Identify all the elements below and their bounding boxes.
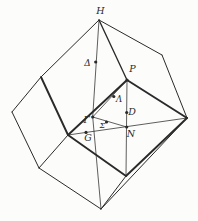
point-label-D: D — [127, 106, 136, 117]
edge-vR-P — [127, 80, 187, 118]
polyhedron-edges-layer — [12, 20, 187, 209]
edge-H-vUL — [41, 20, 99, 77]
point-dot-Delta — [94, 60, 97, 63]
edge-vL-vLL — [12, 112, 39, 168]
edge-H-vUR — [99, 20, 162, 55]
line-H-Gamma — [93, 20, 99, 117]
edge-vB-vR — [101, 118, 187, 209]
point-dot-Lambda — [112, 95, 115, 98]
point-label-Delta: Δ — [83, 58, 91, 68]
edge-vFL-vFB — [68, 135, 126, 176]
point-label-Gamma: Γ — [82, 115, 90, 125]
edge-vUL-vL — [12, 77, 41, 112]
edge-P-vFL — [68, 80, 127, 135]
point-label-Sigma: Σ — [98, 121, 105, 130]
point-label-G: G — [84, 132, 92, 143]
point-dot-P — [125, 78, 128, 81]
edge-H-P — [99, 20, 127, 80]
point-label-P: P — [128, 63, 136, 74]
edge-vUL-vFL — [41, 77, 68, 135]
rhombic-dodecahedron-diagram: HΔPΛDΓΣNG — [0, 0, 198, 221]
point-dot-Gamma — [91, 115, 94, 118]
edge-vLL-vB — [39, 168, 101, 209]
edge-vUR-vR — [162, 55, 187, 118]
edge-vB-vFB — [101, 176, 126, 209]
figure-canvas: HΔPΛDΓΣNG — [0, 0, 198, 221]
line-Gamma-N — [93, 117, 127, 127]
point-dot-Sigma — [105, 120, 108, 123]
point-label-N: N — [126, 128, 136, 139]
point-label-H: H — [95, 5, 105, 16]
point-label-Lambda: Λ — [115, 94, 122, 104]
edge-vLL-vFL — [39, 135, 68, 168]
